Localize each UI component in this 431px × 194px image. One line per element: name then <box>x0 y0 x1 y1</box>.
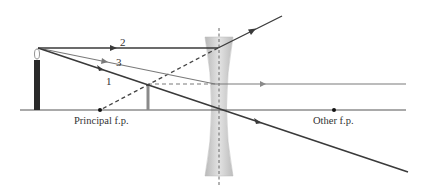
ray-1-out-arrow-icon <box>254 118 262 124</box>
other-focal-point <box>332 108 336 112</box>
candle-flame-icon <box>35 49 40 59</box>
ray-3-label: 3 <box>116 57 122 68</box>
other-fp-label: Other f.p. <box>313 116 354 127</box>
ray-diagram <box>0 0 431 194</box>
candle-object <box>34 60 40 110</box>
ray-3-out-arrow-icon <box>260 81 266 87</box>
principal-fp-label: Principal f.p. <box>74 116 129 127</box>
ray-1-arrow-icon <box>97 65 104 71</box>
ray-2-label: 2 <box>120 37 126 48</box>
principal-focal-point <box>98 108 102 112</box>
ray-2-arrow-icon <box>110 45 117 51</box>
ray-1-label: 1 <box>106 76 112 87</box>
ray-3-arrow-icon <box>101 58 108 64</box>
ray-3-incident <box>38 48 215 84</box>
